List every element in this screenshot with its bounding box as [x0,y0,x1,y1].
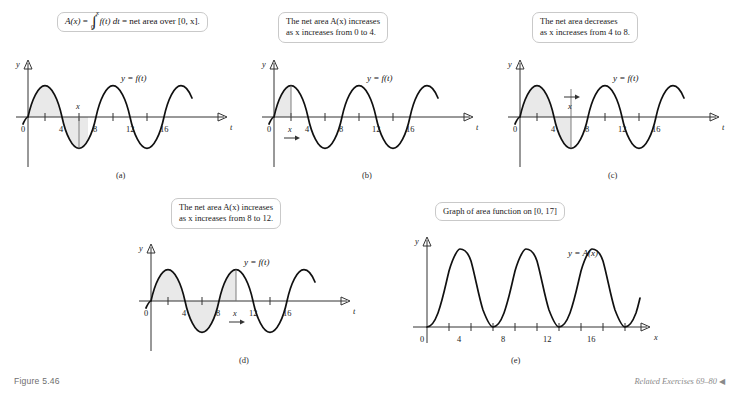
formula-equals-2: = [122,16,127,26]
panel-a: A(x) = ∫x0 f(t) dt = net area over [0, x… [0,0,246,190]
related-exercises: Related Exercises 69–80 ◀ [634,377,725,386]
panel-b-label: (b) [362,170,372,180]
formula-lhs: A(x) [65,16,81,26]
panel-d-label: (d) [239,355,249,365]
panel-e-tick-label-4: 4 [457,335,462,344]
panel-c-label: (c) [608,170,617,180]
panel-c-tick-label-4: 4 [551,125,556,134]
panel-a-label: (a) [116,170,125,180]
panel-e-curve [427,249,640,327]
panel-d-callout-line-1: The net area A(x) increases [179,202,273,213]
panel-b-origin-label: 0 [267,125,271,134]
panel-d: The net area A(x) increases as x increas… [123,188,369,378]
panel-d-tick-label-4: 4 [182,309,187,318]
panel-d-y-axis-label: y [138,244,143,253]
panel-c-marker-label: x [567,102,572,111]
panel-e-x-axis-label: x [653,333,658,342]
panel-c-tick-label-16: 16 [652,125,660,134]
panel-c-callout: The net area decreases as x increases fr… [532,12,638,43]
panel-a-y-axis-label: y [15,60,20,69]
formula-integrand: f(t) dt [99,16,119,26]
panel-a-tick-label-16: 16 [160,125,168,134]
panel-e-tick-label-12: 12 [543,335,551,344]
panel-e-plot: 0 4 8 12 16 x y y = A(x) [405,228,675,348]
panel-b-plot: 0 4 8 12 16 t y x y = f(t) [254,57,484,172]
panel-d-callout: The net area A(x) increases as x increas… [171,198,281,229]
panel-d-tick-label-8: 8 [216,309,220,318]
figure-caption: Figure 5.46 [14,376,60,386]
panel-c-y-axis-label: y [507,60,512,69]
panel-d-x-axis-label: t [353,307,356,316]
panel-b-marker-label: x [287,125,292,134]
panel-e-callout-line-1: Graph of area function on [0, 17] [443,206,557,217]
panel-c-marker-arrow-icon [564,95,580,100]
panel-e-label: (e) [511,355,520,365]
panel-d-tick-label-16: 16 [283,309,291,318]
panel-a-marker-label: x [75,102,80,111]
panel-e-y-axis-label: y [414,237,419,246]
panel-a-curve-label: y = f(t) [120,73,147,83]
panel-e-origin-label: 0 [420,335,424,344]
panel-c: The net area decreases as x increases fr… [492,0,739,190]
panel-e-tick-label-8: 8 [501,335,505,344]
related-exercises-marker-icon: ◀ [719,377,725,386]
panel-c-curve-label: y = f(t) [612,73,639,83]
panel-c-origin-label: 0 [513,125,517,134]
panel-b-tick-label-4: 4 [305,125,310,134]
panel-b-shaded-area [274,86,291,117]
panel-d-shaded-area-pos-2 [219,270,236,301]
panel-d-curve-label: y = f(t) [243,257,270,267]
panel-d-origin-label: 0 [144,309,148,318]
panel-c-tick-label-8: 8 [585,125,589,134]
panel-b-y-axis-label: y [261,60,266,69]
panel-d-plot: 0 4 8 12 16 t y x y = f(t) [131,241,361,356]
panel-d-marker-label: x [232,309,237,318]
panel-b: The net area A(x) increases as x increas… [246,0,492,190]
panel-d-marker-arrow-icon [229,320,245,325]
panel-a-tick-label-8: 8 [93,125,97,134]
formula-equals-1: = [83,16,88,26]
panel-b-callout-line-1: The net area A(x) increases [286,16,380,27]
panel-a-x-axis-label: t [230,123,233,132]
panel-b-marker-arrow-icon [284,136,300,141]
panel-b-tick-label-8: 8 [339,125,343,134]
panel-a-origin-label: 0 [21,125,25,134]
panel-c-plot: 0 4 8 12 16 t y x y = f(t) [500,57,730,172]
area-function-formula: A(x) = ∫x0 f(t) dt = net area over [0, x… [65,16,200,26]
panel-b-x-axis-label: t [476,123,479,132]
panel-a-tick-label-4: 4 [59,125,64,134]
panel-a-tick-label-12: 12 [126,125,134,134]
panel-d-tick-label-12: 12 [249,309,257,318]
panel-e-tick-label-16: 16 [587,335,595,344]
panel-e-curve-label: y = A(x) [567,248,598,258]
panel-b-curve-label: y = f(t) [366,73,393,83]
panel-a-formula-callout: A(x) = ∫x0 f(t) dt = net area over [0, x… [57,12,208,32]
panel-b-callout: The net area A(x) increases as x increas… [278,12,388,43]
formula-rhs: net area over [0, x]. [129,16,199,26]
panel-c-tick-label-12: 12 [618,125,626,134]
panel-b-callout-line-2: as x increases from 0 to 4. [286,27,380,38]
panel-c-callout-line-2: as x increases from 4 to 8. [540,27,630,38]
panel-b-tick-label-16: 16 [406,125,414,134]
panel-e: Graph of area function on [0, 17] 0 4 8 … [369,188,669,378]
integral-upper-limit: x [96,10,99,17]
related-exercises-text: Related Exercises 69–80 [634,377,716,386]
panel-c-x-axis-label: t [722,123,725,132]
panel-a-plot: 0 4 8 12 16 t y x y = f(t) [8,57,238,172]
panel-d-callout-line-2: as x increases from 8 to 12. [179,213,273,224]
integral-lower-limit: 0 [91,24,94,31]
panel-c-callout-line-1: The net area decreases [540,16,630,27]
panel-b-tick-label-12: 12 [372,125,380,134]
panel-c-shaded-area-negative [554,117,571,148]
panel-e-callout: Graph of area function on [0, 17] [435,202,565,221]
